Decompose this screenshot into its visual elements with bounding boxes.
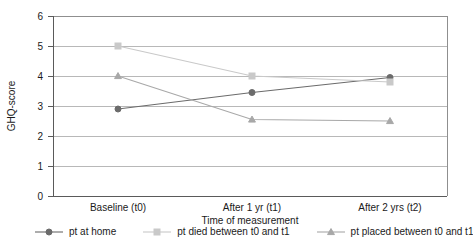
data-point-1-0 <box>115 43 121 49</box>
legend-marker-triangle-icon <box>316 226 346 238</box>
y-tick-label-6: 6 <box>37 11 43 22</box>
x-tick-label-t2: After 2 yrs (t2) <box>358 202 421 213</box>
y-tick-label-4: 4 <box>37 71 43 82</box>
legend-label-1: pt died between t0 and t1 <box>177 226 289 238</box>
legend-item-1[interactable]: pt died between t0 and t1 <box>142 226 289 238</box>
data-point-1-1 <box>249 73 255 79</box>
x-tick-labels: Baseline (t0) After 1 yr (t1) After 2 yr… <box>90 202 422 213</box>
legend-marker-square-icon <box>142 226 172 238</box>
y-axis-title: GHQ-score <box>6 80 17 131</box>
legend-item-2[interactable]: pt placed between t0 and t1 <box>316 226 473 238</box>
series-layer <box>115 43 394 124</box>
y-tick-labels: 6 5 4 3 2 1 0 <box>37 11 43 202</box>
series-1 <box>115 43 393 85</box>
data-point-0-0 <box>115 106 121 112</box>
y-tick-label-5: 5 <box>37 41 43 52</box>
y-tick-label-3: 3 <box>37 101 43 112</box>
x-tick-label-t0: Baseline (t0) <box>90 202 146 213</box>
y-tick-label-2: 2 <box>37 131 43 142</box>
series-line-2 <box>118 76 390 121</box>
legend-marker-circle-icon <box>34 226 64 238</box>
x-tick-label-t1: After 1 yr (t1) <box>223 202 281 213</box>
y-tick-label-1: 1 <box>37 161 43 172</box>
y-gridlines <box>53 46 447 166</box>
x-axis-title: Time of measurement <box>202 215 299 226</box>
data-point-1-2 <box>387 79 393 85</box>
legend-label-2: pt placed between t0 and t1 <box>351 226 473 238</box>
legend-item-0[interactable]: pt at home <box>34 226 116 238</box>
chart-legend: pt at homept died between t0 and t1pt pl… <box>0 226 460 249</box>
data-point-0-1 <box>249 90 255 96</box>
y-tick-marks <box>48 16 53 196</box>
legend-label-0: pt at home <box>69 226 116 238</box>
y-tick-label-0: 0 <box>37 191 43 202</box>
